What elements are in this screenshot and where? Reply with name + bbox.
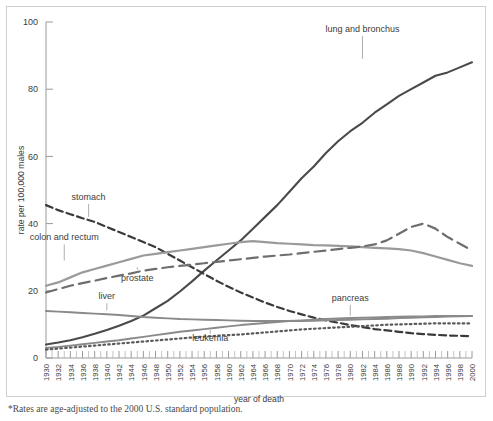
x-tick-label: 1964 [249,364,258,381]
y-tick-label: 20 [28,286,38,296]
series-line-colon-and-rectum [46,241,472,286]
y-axis-title: rate per 100,000 males [16,146,26,234]
y-tick-label: 80 [28,84,38,94]
x-tick-label: 1968 [273,364,282,381]
x-tick-label: 2000 [468,364,477,381]
x-tick-label: 1986 [383,364,392,381]
x-tick-label: 1998 [456,364,465,381]
x-tick-label: 1936 [79,364,88,381]
series-label-colon-and-rectum: colon and rectum [30,232,99,242]
series-label-lung-and-bronchus: lung and bronchus [325,24,400,34]
x-tick-label: 1994 [432,364,441,381]
series-label-stomach: stomach [72,192,106,202]
x-tick-label: 1972 [298,364,307,381]
line-chart: 0204060801001930193219341936193819401942… [0,0,493,421]
y-tick-label: 0 [33,353,38,363]
series-label-pancreas: pancreas [332,293,370,303]
x-tick-label: 1984 [371,364,380,381]
x-tick-label: 1976 [322,364,331,381]
x-tick-label: 1958 [213,364,222,381]
y-tick-label: 100 [23,17,38,27]
x-tick-label: 1938 [91,364,100,381]
x-tick-label: 1974 [310,364,319,381]
x-tick-label: 1980 [346,364,355,381]
series-label-leukemia: leukemia [192,333,228,343]
x-tick-label: 1966 [261,364,270,381]
x-tick-label: 1992 [420,364,429,381]
x-tick-label: 1948 [152,364,161,381]
x-tick-label: 1962 [237,364,246,381]
x-tick-label: 1952 [176,364,185,381]
series-label-prostate: prostate [121,273,154,283]
y-tick-label: 40 [28,219,38,229]
x-tick-label: 1934 [67,364,76,381]
x-tick-label: 1956 [200,364,209,381]
x-tick-label: 1960 [225,364,234,381]
x-tick-label: 1950 [164,364,173,381]
x-tick-label: 1930 [42,364,51,381]
series-line-leukemia [46,323,472,349]
series-line-lung-and-bronchus [46,62,472,344]
figure-container: 0204060801001930193219341936193819401942… [0,0,493,421]
x-axis-title: year of death [234,394,284,404]
x-tick-label: 1978 [334,364,343,381]
x-tick-label: 1942 [115,364,124,381]
x-tick-label: 1990 [407,364,416,381]
x-tick-label: 1988 [395,364,404,381]
x-tick-label: 1982 [359,364,368,381]
x-tick-label: 1970 [286,364,295,381]
y-tick-label: 60 [28,152,38,162]
figure-footnote: *Rates are age-adjusted to the 2000 U.S.… [8,404,478,414]
x-tick-label: 1940 [103,364,112,381]
x-tick-label: 1946 [140,364,149,381]
x-tick-label: 1944 [127,364,136,381]
x-tick-label: 1996 [444,364,453,381]
x-tick-label: 1932 [54,364,63,381]
series-label-liver: liver [99,291,116,301]
series-line-prostate [46,224,472,293]
x-tick-label: 1954 [188,364,197,381]
